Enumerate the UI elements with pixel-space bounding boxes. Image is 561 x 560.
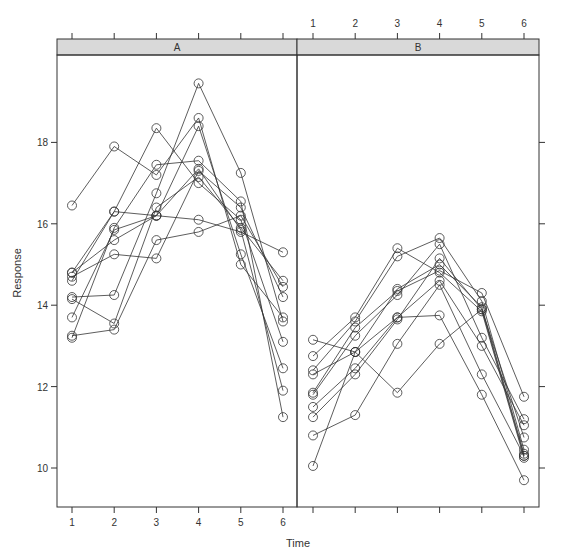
series-b7 bbox=[309, 276, 529, 429]
x-tick-label: 6 bbox=[280, 517, 286, 528]
x-tick-label-top: 3 bbox=[395, 18, 401, 29]
series-line bbox=[72, 83, 283, 321]
series-a7 bbox=[68, 211, 288, 322]
x-tick-label-top: 1 bbox=[310, 18, 316, 29]
series-line bbox=[313, 285, 524, 456]
series-a5 bbox=[68, 79, 288, 326]
strip-label: B bbox=[415, 42, 422, 53]
x-axis-label: Time bbox=[286, 537, 310, 549]
x-tick-label-top: 6 bbox=[521, 18, 527, 29]
y-tick-label: 16 bbox=[37, 219, 49, 230]
series-line bbox=[72, 216, 283, 318]
series-b1 bbox=[309, 305, 529, 461]
x-tick-label-top: 5 bbox=[479, 18, 485, 29]
x-tick-label: 3 bbox=[154, 517, 160, 528]
series-a9 bbox=[68, 156, 288, 421]
series-b6 bbox=[309, 240, 529, 424]
x-tick-label-top: 4 bbox=[437, 18, 443, 29]
panel-b: B123456 bbox=[297, 18, 545, 513]
y-axis-label: Response bbox=[11, 248, 23, 298]
series-a4 bbox=[68, 124, 288, 347]
series-line bbox=[313, 248, 524, 458]
series-b9 bbox=[309, 280, 529, 460]
x-tick-label: 5 bbox=[238, 517, 244, 528]
series-line bbox=[313, 281, 524, 425]
x-tick-label: 1 bbox=[69, 517, 75, 528]
x-tick-label: 2 bbox=[111, 517, 117, 528]
lattice-chart: A1234561012141618B123456 Time Response bbox=[0, 0, 561, 560]
series-a2 bbox=[68, 122, 288, 373]
series-line bbox=[72, 128, 283, 342]
series-line bbox=[72, 169, 283, 391]
series-b3 bbox=[309, 234, 529, 455]
series-line bbox=[313, 309, 524, 456]
strip-label: A bbox=[174, 42, 181, 53]
series-line bbox=[313, 244, 524, 419]
series-a8 bbox=[68, 211, 288, 340]
panel-a: A1234561012141618 bbox=[37, 33, 297, 528]
y-tick-label: 14 bbox=[37, 300, 49, 311]
x-tick-label-top: 2 bbox=[352, 18, 358, 29]
panels: A1234561012141618B123456 bbox=[37, 18, 545, 528]
series-line bbox=[313, 265, 524, 454]
x-tick-label: 4 bbox=[196, 517, 202, 528]
y-tick-label: 10 bbox=[37, 463, 49, 474]
y-tick-label: 18 bbox=[37, 137, 49, 148]
plot-area bbox=[57, 55, 297, 507]
y-tick-label: 12 bbox=[37, 382, 49, 393]
series-line bbox=[72, 161, 283, 417]
series-a10 bbox=[68, 164, 288, 395]
